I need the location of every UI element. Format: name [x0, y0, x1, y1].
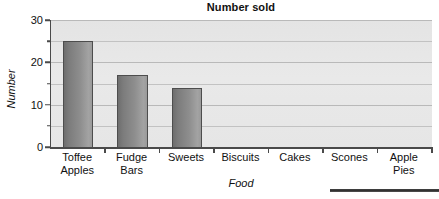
- x-axis-tick-label: Cakes: [268, 151, 322, 164]
- y-axis-ticks: 3020100: [0, 0, 50, 199]
- x-axis-title: Food: [50, 177, 432, 189]
- x-axis-line: [50, 147, 432, 149]
- y-axis-tick-label: 10: [31, 99, 43, 111]
- bar-slot: [323, 20, 377, 147]
- scan-artifact-bar: [330, 189, 439, 192]
- x-axis-tick-label: Sweets: [159, 151, 213, 164]
- bar-slot: [105, 20, 159, 147]
- x-axis-tick-label: FudgeBars: [104, 151, 158, 176]
- bar-slot: [378, 20, 432, 147]
- bar[interactable]: [63, 41, 93, 147]
- bar[interactable]: [117, 75, 147, 147]
- bar[interactable]: [172, 88, 202, 147]
- x-axis-tick-label: ToffeeApples: [50, 151, 104, 176]
- bar-slot: [269, 20, 323, 147]
- chart-title: Number sold: [50, 1, 432, 13]
- y-axis-tick-label: 20: [31, 56, 43, 68]
- bars-layer: [51, 20, 432, 147]
- y-axis-tick-label: 0: [37, 141, 43, 153]
- bar-chart: Number sold Number 3020100 ToffeeApplesF…: [0, 0, 439, 199]
- y-axis-tick-label: 30: [31, 14, 43, 26]
- x-axis-tick-label: ApplePies: [377, 151, 431, 176]
- x-axis-tick-label: Scones: [322, 151, 376, 164]
- x-axis-tick-label: Biscuits: [213, 151, 267, 164]
- bar-slot: [214, 20, 268, 147]
- bar-slot: [160, 20, 214, 147]
- plot-area: [50, 20, 432, 147]
- bar-slot: [51, 20, 105, 147]
